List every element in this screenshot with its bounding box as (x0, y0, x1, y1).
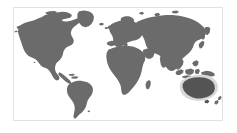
world-map-widget (0, 0, 237, 133)
world-map-canvas[interactable] (14, 8, 222, 120)
map-frame (13, 7, 223, 121)
